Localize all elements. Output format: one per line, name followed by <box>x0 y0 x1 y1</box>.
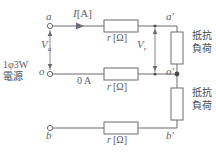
source-label-line2: 電源 <box>3 72 23 83</box>
resistor-middle-label: r [Ω] <box>107 82 127 93</box>
resistor-middle <box>104 68 138 80</box>
terminal-a <box>47 23 52 28</box>
resistor-top-symbol: r <box>107 32 111 43</box>
terminal-label-b: b <box>46 130 52 142</box>
current-unit: [A] <box>77 7 92 19</box>
resistor-bottom <box>104 122 138 134</box>
circuit-diagram: a o b a′ o′ b′ I[A] Va Vr 0 A r [Ω] r [Ω… <box>0 0 216 152</box>
lower-load-label-line1: 抵抗 <box>192 88 212 99</box>
resistor-bottom-unit: [Ω] <box>113 134 127 145</box>
node-o-prime <box>175 72 180 77</box>
load-resistor-lower <box>171 88 183 120</box>
resistor-top-unit: [Ω] <box>113 32 127 43</box>
drop-voltage-arrow <box>153 25 158 76</box>
source-voltage-label: Va <box>41 39 51 52</box>
resistor-bottom-symbol: r <box>107 134 111 145</box>
neutral-current-label: 0 A <box>77 76 91 87</box>
resistor-bottom-label: r [Ω] <box>107 135 127 146</box>
drop-voltage-label: Vr <box>137 39 146 52</box>
source-label-line1: 1φ3W <box>3 60 28 71</box>
lower-load-label-line2: 負荷 <box>192 101 212 112</box>
upper-load-label-line2: 負荷 <box>192 44 212 55</box>
current-label: I[A] <box>73 8 92 20</box>
resistor-top-label: r [Ω] <box>107 33 127 44</box>
drop-voltage-subscript: r <box>144 45 147 52</box>
resistor-top <box>104 20 138 32</box>
resistor-middle-symbol: r <box>107 81 111 92</box>
terminal-label-o: o <box>39 66 45 78</box>
terminal-label-a-prime: a′ <box>166 11 174 23</box>
terminal-label-o-prime: o′ <box>166 66 174 78</box>
circuit-schematic-canvas <box>0 0 216 152</box>
upper-load-label-line1: 抵抗 <box>192 31 212 42</box>
terminal-label-a: a <box>46 11 52 23</box>
drop-voltage-symbol: V <box>137 38 144 50</box>
current-arrow-icon <box>76 22 84 29</box>
terminal-label-b-prime: b′ <box>166 130 174 142</box>
load-resistor-upper <box>171 32 183 64</box>
resistor-middle-unit: [Ω] <box>113 81 127 92</box>
source-voltage-subscript: a <box>48 45 51 52</box>
terminal-o <box>47 71 52 76</box>
source-voltage-symbol: V <box>41 38 48 50</box>
